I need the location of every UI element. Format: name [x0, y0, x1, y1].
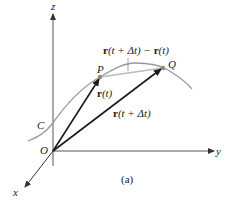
figure-caption: (a) — [121, 173, 134, 186]
x-axis — [25, 151, 53, 187]
vector-diagram: z y x O C P Q r(t + Δt) − r(t) r(t) r(t … — [0, 0, 230, 206]
point-q-label: Q — [168, 58, 176, 70]
point-q — [161, 66, 165, 70]
curve-label: C — [37, 119, 45, 131]
x-axis-label: x — [12, 186, 18, 198]
z-axis-label: z — [50, 0, 56, 12]
r-t-label: r(t) — [97, 87, 113, 100]
point-p — [98, 75, 102, 79]
point-p-label: P — [96, 63, 104, 75]
difference-vector-label: r(t + Δt) − r(t) — [103, 44, 169, 57]
r-t-dt-label: r(t + Δt) — [113, 107, 151, 120]
y-axis-label: y — [215, 145, 221, 157]
origin-label: O — [40, 144, 48, 156]
vector-r-t — [53, 79, 99, 151]
